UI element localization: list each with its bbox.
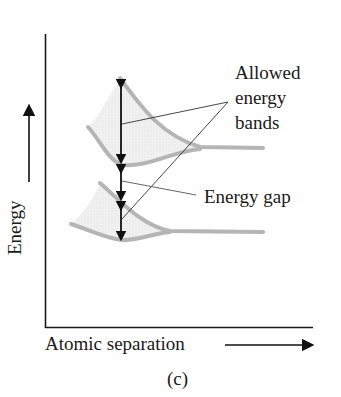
allowed-label-line1: Allowed <box>235 62 300 84</box>
energy-gap-label: Energy gap <box>204 186 291 208</box>
allowed-bands-label: Allowed energy bands <box>235 62 300 134</box>
panel-label: (c) <box>167 368 188 390</box>
allowed-label-line3: bands <box>235 112 300 134</box>
x-axis-label: Atomic separation <box>45 333 185 355</box>
y-axis-label: Energy <box>4 200 26 255</box>
allowed-label-line2: energy <box>235 87 300 109</box>
gap-leader <box>122 181 196 195</box>
